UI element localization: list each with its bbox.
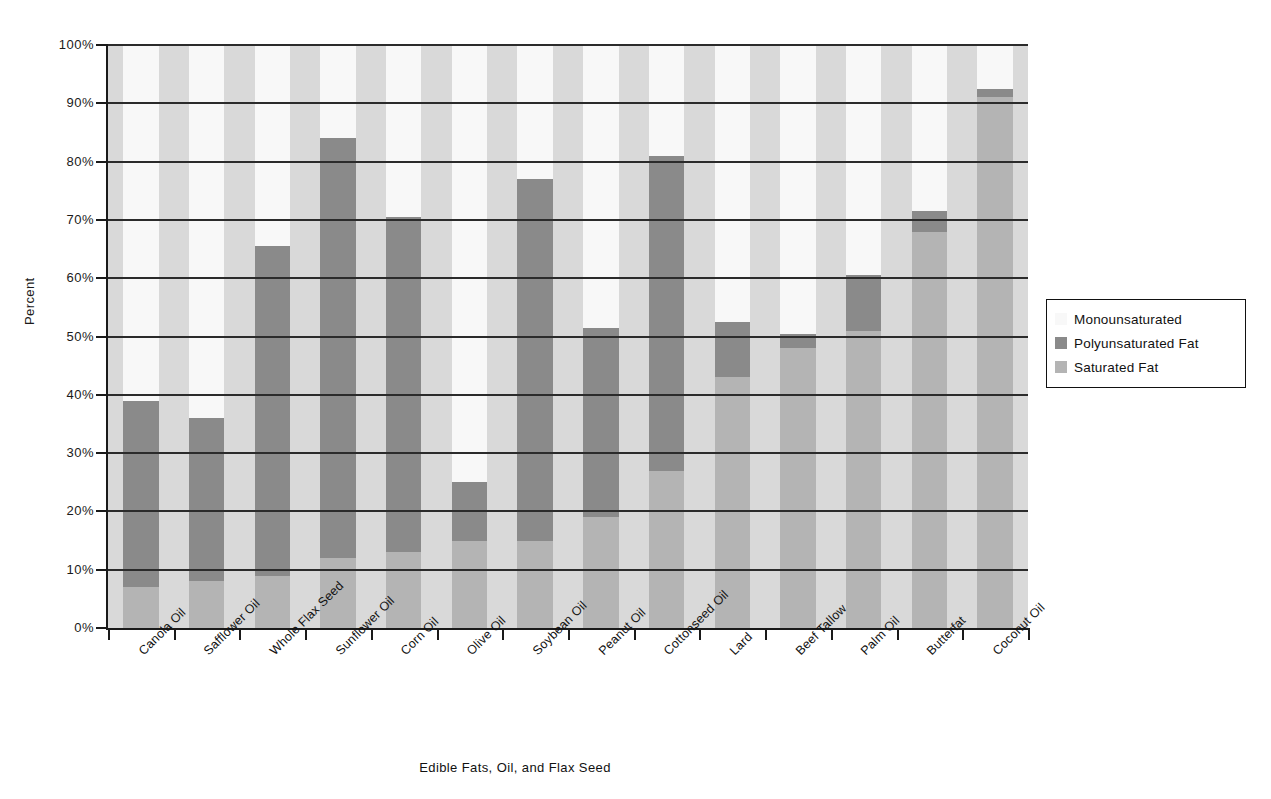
x-axis-tick <box>699 630 701 640</box>
bar-segment-monounsaturated[interactable] <box>912 45 947 211</box>
bar-segment-monounsaturated[interactable] <box>977 45 1012 89</box>
y-axis-tick <box>96 277 107 279</box>
legend-item: Polyunsaturated Fat <box>1055 331 1237 355</box>
bar-segment-monounsaturated[interactable] <box>386 45 421 217</box>
x-axis-tick <box>634 630 636 640</box>
gridline <box>108 219 1028 221</box>
y-axis-tick <box>96 102 107 104</box>
x-axis-title: Edible Fats, Oil, and Flax Seed <box>0 760 1030 775</box>
y-axis-tick <box>96 569 107 571</box>
x-axis-tick <box>305 630 307 640</box>
legend-swatch-monounsaturated <box>1055 313 1067 325</box>
bar-segment-polyunsaturated[interactable] <box>912 211 947 231</box>
y-axis-tick <box>96 510 107 512</box>
y-axis-tick <box>96 452 107 454</box>
bar-segment-saturated[interactable] <box>452 541 487 628</box>
bar-segment-saturated[interactable] <box>386 552 421 628</box>
bar-segment-saturated[interactable] <box>649 471 684 628</box>
y-axis-tick <box>96 336 107 338</box>
x-axis-tick <box>108 630 110 640</box>
bar-segment-polyunsaturated[interactable] <box>517 179 552 540</box>
bar-segment-monounsaturated[interactable] <box>123 45 158 401</box>
y-axis-tick-label: 10% <box>34 562 94 577</box>
bar-segment-saturated[interactable] <box>977 97 1012 628</box>
bar-segment-monounsaturated[interactable] <box>320 45 355 138</box>
bar-segment-polyunsaturated[interactable] <box>320 138 355 558</box>
x-axis-tick <box>371 630 373 640</box>
bar-segment-saturated[interactable] <box>846 331 881 628</box>
x-axis-category-label: Lard <box>727 630 755 658</box>
bar-segment-monounsaturated[interactable] <box>189 45 224 418</box>
bar-segment-saturated[interactable] <box>517 541 552 628</box>
plot-area <box>108 45 1028 628</box>
legend-label-monounsaturated: Monounsaturated <box>1074 312 1182 327</box>
legend-item: Saturated Fat <box>1055 355 1237 379</box>
gridline <box>108 510 1028 512</box>
y-axis-tick-label: 100% <box>34 37 94 52</box>
gridline <box>108 102 1028 104</box>
bar-segment-monounsaturated[interactable] <box>780 45 815 334</box>
bar-segment-monounsaturated[interactable] <box>715 45 750 322</box>
chart-legend: Monounsaturated Polyunsaturated Fat Satu… <box>1046 299 1246 388</box>
gridline <box>108 569 1028 571</box>
bar-segment-polyunsaturated[interactable] <box>715 322 750 377</box>
bar-segment-saturated[interactable] <box>583 517 618 628</box>
y-axis-tick-label: 40% <box>34 387 94 402</box>
x-axis-tick <box>239 630 241 640</box>
gridline <box>108 452 1028 454</box>
y-axis-tick-label: 30% <box>34 445 94 460</box>
y-axis-tick <box>96 219 107 221</box>
bar-segment-polyunsaturated[interactable] <box>583 328 618 517</box>
legend-label-polyunsaturated: Polyunsaturated Fat <box>1074 336 1199 351</box>
x-axis-tick <box>897 630 899 640</box>
legend-label-saturated: Saturated Fat <box>1074 360 1158 375</box>
bar-segment-polyunsaturated[interactable] <box>977 89 1012 98</box>
y-axis-tick <box>96 161 107 163</box>
gridline <box>108 277 1028 279</box>
y-axis-tick-label: 70% <box>34 212 94 227</box>
y-axis-tick <box>96 44 107 46</box>
y-axis-tick-label: 90% <box>34 95 94 110</box>
gridline <box>108 44 1028 46</box>
bar-segment-monounsaturated[interactable] <box>649 45 684 156</box>
y-axis-tick-label: 20% <box>34 503 94 518</box>
bar-segment-polyunsaturated[interactable] <box>846 275 881 330</box>
bar-segment-saturated[interactable] <box>780 348 815 628</box>
legend-swatch-saturated <box>1055 361 1067 373</box>
y-axis-tick-label: 80% <box>34 154 94 169</box>
x-axis-tick <box>174 630 176 640</box>
bar-segment-saturated[interactable] <box>189 581 224 628</box>
legend-item: Monounsaturated <box>1055 307 1237 331</box>
y-axis-tick-label: 50% <box>34 329 94 344</box>
bar-segment-saturated[interactable] <box>255 576 290 628</box>
gridline <box>108 394 1028 396</box>
bar-segment-polyunsaturated[interactable] <box>649 156 684 471</box>
x-axis-tick <box>437 630 439 640</box>
y-axis-tick <box>96 627 107 629</box>
legend-swatch-polyunsaturated <box>1055 337 1067 349</box>
y-axis-tick <box>96 394 107 396</box>
bar-segment-polyunsaturated[interactable] <box>189 418 224 581</box>
x-axis-tick <box>962 630 964 640</box>
bar-segment-monounsaturated[interactable] <box>255 45 290 246</box>
x-axis-tick <box>831 630 833 640</box>
gridline <box>108 336 1028 338</box>
chart-figure: Percent 0%10%20%30%40%50%60%70%80%90%100… <box>0 0 1271 799</box>
bar-segment-monounsaturated[interactable] <box>517 45 552 179</box>
y-axis-tick-label: 0% <box>34 620 94 635</box>
bar-segment-monounsaturated[interactable] <box>583 45 618 328</box>
bar-segment-polyunsaturated[interactable] <box>123 401 158 588</box>
x-axis-tick <box>502 630 504 640</box>
y-axis-tick-label: 60% <box>34 270 94 285</box>
bar-segment-monounsaturated[interactable] <box>452 45 487 482</box>
x-axis-tick <box>1028 630 1030 640</box>
bar-segment-polyunsaturated[interactable] <box>255 246 290 575</box>
x-axis-tick <box>568 630 570 640</box>
bar-segment-saturated[interactable] <box>123 587 158 628</box>
gridline <box>108 161 1028 163</box>
x-axis-tick <box>765 630 767 640</box>
bar-segment-polyunsaturated[interactable] <box>386 217 421 552</box>
